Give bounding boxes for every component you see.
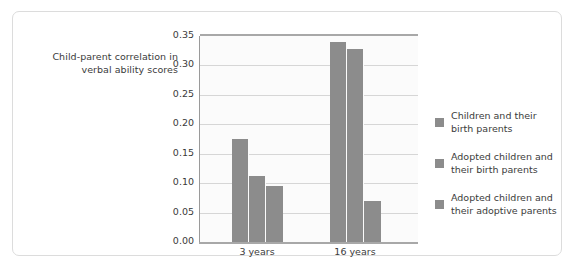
bar (266, 186, 283, 243)
y-tick-label: 0.35 (160, 29, 194, 40)
bar-group (330, 36, 381, 242)
x-axis-line (199, 242, 418, 244)
y-tick-label: 0.15 (160, 146, 194, 157)
y-tick-label: 0.25 (160, 87, 194, 98)
legend-swatch-icon (435, 118, 444, 127)
legend-swatch-icon (435, 200, 444, 209)
legend-item[interactable]: Children and their birth parents (435, 110, 565, 135)
legend-swatch-icon (435, 159, 444, 168)
y-tick-label: 0.05 (160, 205, 194, 216)
y-axis-tick-labels: 0.350.300.250.200.150.100.050.00 (158, 34, 194, 240)
y-tick-label: 0.00 (160, 235, 194, 246)
legend-item[interactable]: Adopted children and their birth parents (435, 151, 565, 176)
plot-area (200, 34, 418, 242)
figure-frame: Child-parent correlation in verbal abili… (12, 11, 562, 256)
bar (364, 201, 381, 242)
x-tick-label: 3 years (222, 246, 292, 257)
bar (249, 176, 266, 242)
x-tick-label: 16 years (320, 246, 390, 257)
bar (330, 42, 347, 242)
bar (232, 139, 249, 242)
bar-group (232, 36, 283, 242)
y-tick-label: 0.10 (160, 176, 194, 187)
y-axis-line (199, 36, 200, 242)
legend-item[interactable]: Adopted children and their adoptive pare… (435, 192, 565, 217)
chart-legend: Children and their birth parentsAdopted … (435, 110, 565, 233)
y-axis-title: Child-parent correlation in verbal abili… (23, 50, 178, 76)
bar (347, 49, 364, 242)
plot-inner (200, 36, 418, 242)
legend-label: Adopted children and their adoptive pare… (451, 192, 557, 217)
y-tick-label: 0.20 (160, 117, 194, 128)
legend-label: Children and their birth parents (451, 110, 537, 135)
legend-label: Adopted children and their birth parents (451, 151, 553, 176)
y-tick-label: 0.30 (160, 58, 194, 69)
